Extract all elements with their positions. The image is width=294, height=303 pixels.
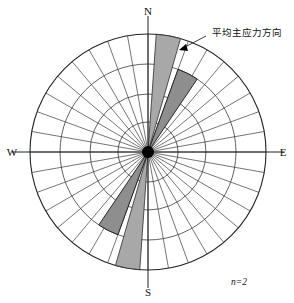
- center-hub: [142, 146, 154, 158]
- axis-label-south: S: [145, 286, 151, 298]
- axis-label-east: E: [280, 146, 287, 158]
- sample-count-label: n=2: [231, 277, 247, 287]
- rose-diagram-canvas: N S E W 平均主应力方向 n=2: [0, 0, 294, 303]
- rose-diagram-figure: N S E W 平均主应力方向 n=2: [0, 0, 294, 303]
- mean-principal-stress-direction-label: 平均主应力方向: [212, 27, 282, 38]
- axis-label-west: W: [7, 146, 18, 158]
- axis-label-north: N: [144, 5, 152, 17]
- center-hub-dot: [142, 146, 154, 158]
